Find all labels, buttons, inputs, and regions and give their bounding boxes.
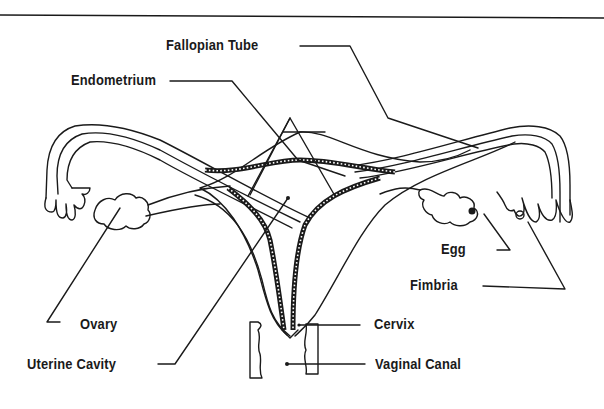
label-fimbria: Fimbria — [410, 276, 458, 293]
egg-shape — [469, 208, 476, 215]
label-ovary: Ovary — [80, 315, 117, 332]
label-fallopian-tube: Fallopian Tube — [166, 36, 258, 53]
label-vaginal-canal: Vaginal Canal — [375, 355, 461, 372]
vaginal-canal-right-wall — [305, 324, 318, 374]
left-fallopian-tube — [46, 125, 310, 218]
leader-fallopian-tube — [300, 46, 478, 148]
top-rule — [0, 15, 604, 18]
endometrium-band-right — [293, 178, 380, 330]
leader-egg — [484, 214, 510, 250]
label-cervix: Cervix — [374, 315, 414, 332]
endometrium-band-top — [205, 160, 395, 172]
label-endometrium: Endometrium — [71, 71, 156, 88]
left-fimbria — [45, 188, 90, 220]
leader-fimbria — [483, 222, 565, 289]
right-ovary — [419, 189, 478, 226]
left-ovary — [94, 194, 150, 230]
reproductive-diagram: Fallopian Tube Endometrium Egg Fimbria O… — [0, 0, 604, 409]
label-egg: Egg — [441, 240, 466, 257]
label-uterine-cavity: Uterine Cavity — [27, 355, 116, 372]
leader-uterine-cavity — [158, 198, 288, 364]
vaginal-canal-left-wall — [250, 322, 262, 378]
anatomy-illustration — [0, 0, 604, 409]
right-fimbria — [497, 192, 572, 222]
leader-ovary — [47, 208, 120, 322]
